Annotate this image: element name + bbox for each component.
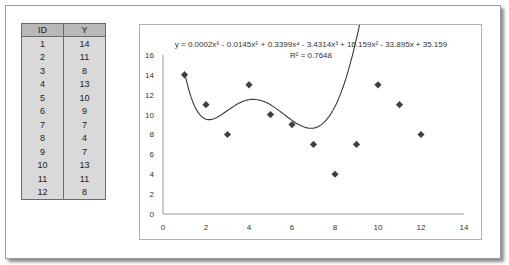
cell-y[interactable]: 11 <box>64 51 106 65</box>
cell-y[interactable]: 13 <box>64 78 106 92</box>
y-tick-label: 16 <box>145 51 154 60</box>
cell-id[interactable]: 4 <box>22 78 64 92</box>
x-tick-label: 8 <box>333 223 338 232</box>
header-id[interactable]: ID <box>22 24 64 37</box>
table-row: 1013 <box>22 159 106 173</box>
y-tick-label: 14 <box>145 71 154 80</box>
table-row: 38 <box>22 64 106 78</box>
cell-id[interactable]: 9 <box>22 145 64 159</box>
trendline-equation: y = 0.0002x⁶ - 0.0145x⁵ + 0.3399x⁴ - 3.4… <box>175 40 448 49</box>
cell-y[interactable]: 9 <box>64 105 106 119</box>
y-tick-label: 6 <box>150 150 155 159</box>
cell-id[interactable]: 7 <box>22 118 64 132</box>
cell-id[interactable]: 2 <box>22 51 64 65</box>
y-tick-label: 0 <box>150 210 155 219</box>
data-table: ID Y 114211384135106977849710131111128 <box>21 23 106 200</box>
table-row: 128 <box>22 186 106 200</box>
diamond-marker[interactable] <box>331 171 338 178</box>
header-y[interactable]: Y <box>64 24 106 37</box>
x-tick-label: 14 <box>460 223 469 232</box>
diamond-marker[interactable] <box>396 101 403 108</box>
diamond-marker[interactable] <box>417 131 424 138</box>
cell-id[interactable]: 12 <box>22 186 64 200</box>
cell-y[interactable]: 14 <box>64 37 106 51</box>
cell-id[interactable]: 1 <box>22 37 64 51</box>
cell-y[interactable]: 11 <box>64 172 106 186</box>
x-tick-label: 12 <box>417 223 426 232</box>
x-tick-label: 4 <box>247 223 252 232</box>
cell-y[interactable]: 7 <box>64 118 106 132</box>
cell-id[interactable]: 8 <box>22 132 64 146</box>
y-tick-label: 12 <box>145 91 154 100</box>
diamond-marker[interactable] <box>181 71 188 78</box>
cell-y[interactable]: 13 <box>64 159 106 173</box>
diamond-marker[interactable] <box>224 131 231 138</box>
cell-id[interactable]: 5 <box>22 91 64 105</box>
y-tick-label: 10 <box>145 111 154 120</box>
cell-y[interactable]: 4 <box>64 132 106 146</box>
diamond-marker[interactable] <box>245 81 252 88</box>
diamond-marker[interactable] <box>353 141 360 148</box>
diamond-marker[interactable] <box>267 111 274 118</box>
x-tick-label: 10 <box>374 223 383 232</box>
cell-y[interactable]: 7 <box>64 145 106 159</box>
data-points <box>181 71 425 178</box>
x-tick-label: 2 <box>204 223 209 232</box>
cell-y[interactable]: 10 <box>64 91 106 105</box>
table-row: 413 <box>22 78 106 92</box>
cell-id[interactable]: 3 <box>22 64 64 78</box>
r-squared-label: R² = 0.7648 <box>290 51 333 60</box>
table-row: 77 <box>22 118 106 132</box>
diamond-marker[interactable] <box>374 81 381 88</box>
table-row: 97 <box>22 145 106 159</box>
cell-y[interactable]: 8 <box>64 64 106 78</box>
table-row: 114 <box>22 37 106 51</box>
cell-id[interactable]: 11 <box>22 172 64 186</box>
scatter-chart[interactable]: y = 0.0002x⁶ - 0.0145x⁵ + 0.3399x⁴ - 3.4… <box>139 24 482 240</box>
table-row: 84 <box>22 132 106 146</box>
y-tick-label: 4 <box>150 170 155 179</box>
cell-id[interactable]: 6 <box>22 105 64 119</box>
cell-y[interactable]: 8 <box>64 186 106 200</box>
diamond-marker[interactable] <box>310 141 317 148</box>
table-row: 211 <box>22 51 106 65</box>
cell-id[interactable]: 10 <box>22 159 64 173</box>
table-row: 1111 <box>22 172 106 186</box>
diamond-marker[interactable] <box>202 101 209 108</box>
y-tick-label: 2 <box>150 190 155 199</box>
x-tick-label: 0 <box>161 223 166 232</box>
y-tick-label: 8 <box>150 130 155 139</box>
x-tick-label: 6 <box>290 223 295 232</box>
table-row: 69 <box>22 105 106 119</box>
table-row: 510 <box>22 91 106 105</box>
chart-axes: 024681012141602468101214 <box>145 51 469 232</box>
chart-canvas: y = 0.0002x⁶ - 0.0145x⁵ + 0.3399x⁴ - 3.4… <box>140 25 481 239</box>
